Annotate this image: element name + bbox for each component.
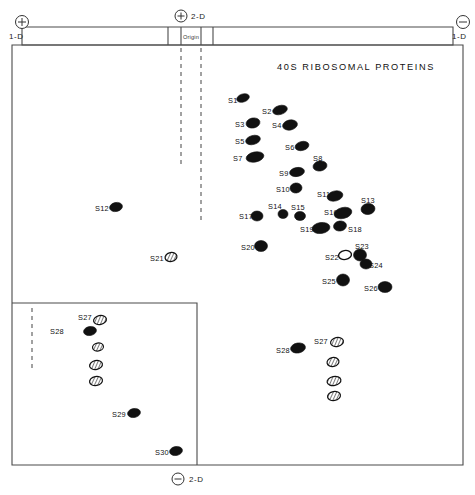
spot-ellipse	[294, 140, 310, 152]
spot-ellipse	[127, 407, 141, 418]
axis-marker-top-center: 2-D	[175, 10, 206, 22]
spot-ellipse	[245, 117, 261, 130]
spot-ellipse	[92, 342, 104, 352]
spot-label: S27	[78, 313, 92, 322]
spot-label: S3	[235, 120, 244, 129]
spot-ellipse	[378, 282, 392, 293]
protein-spot-S21: S21	[150, 252, 178, 263]
protein-spot-S3: S3	[235, 117, 261, 130]
spot-ellipse	[289, 166, 305, 177]
spot-ellipse	[89, 359, 104, 371]
page-title: 40S RIBOSOMAL PROTEINS	[277, 62, 435, 72]
protein-spot-S30: S30	[155, 445, 183, 456]
protein-spot-S18: S18	[333, 220, 362, 234]
spot-ellipse	[311, 221, 330, 234]
protein-spot-S2: S2	[262, 104, 288, 117]
protein-spot-S17: S17	[239, 211, 263, 221]
spot-ellipse	[278, 210, 288, 219]
spot-ellipse	[326, 375, 342, 387]
axis-label-top-left: 1-D	[9, 32, 24, 41]
spot-label: S9	[279, 169, 288, 178]
protein-spot-S19: S19	[300, 221, 331, 234]
spot-label: S12	[95, 204, 109, 213]
gel-electrophoresis-figure: 40S RIBOSOMAL PROTEINS Origin 1-D 1-D 2-…	[0, 0, 475, 495]
protein-spot-S29: S29	[112, 407, 141, 418]
protein-spot-S14: S14	[268, 202, 288, 219]
spot-label: S6	[285, 143, 294, 152]
spot-ellipse	[251, 211, 263, 221]
spot-ellipse	[255, 241, 268, 252]
protein-spot-S1: S1	[228, 92, 250, 104]
protein-spot-S9: S9	[279, 166, 305, 177]
protein-spot-S4: S4	[272, 119, 298, 132]
spot-label: S17	[239, 212, 253, 221]
spot-label: S4	[272, 121, 281, 130]
spot-label: S28	[276, 346, 290, 355]
protein-spot-S10: S10	[276, 182, 303, 194]
spot-label: S20	[241, 243, 255, 252]
protein-spot-S28: S28	[50, 325, 97, 336]
spot-ellipse	[282, 119, 299, 132]
protein-spot-S27: S27	[314, 336, 344, 348]
spot-label: S8	[313, 154, 322, 163]
spot-ellipse	[337, 274, 350, 286]
protein-spot-S5: S5	[235, 134, 261, 147]
protein-spot-unlabeled	[89, 375, 103, 386]
protein-spot-unlabeled	[89, 359, 104, 371]
spot-label: S5	[235, 137, 244, 146]
spot-ellipse	[338, 249, 352, 260]
axis-label-bottom-center: 2-D	[189, 475, 204, 484]
spot-ellipse	[164, 252, 177, 263]
spot-label: S22	[325, 253, 339, 262]
spot-ellipse	[326, 357, 339, 368]
main-gel-panel	[12, 45, 463, 465]
spot-label: S14	[268, 202, 282, 211]
inset-gel-panel	[12, 303, 197, 465]
gel-map-svg: 40S RIBOSOMAL PROTEINS Origin 1-D 1-D 2-…	[0, 0, 475, 495]
spot-label: S1	[228, 96, 237, 105]
spot-label: S13	[361, 196, 375, 205]
protein-spot-S13: S13	[360, 196, 375, 216]
spot-ellipse	[327, 390, 341, 401]
spot-label: S2	[262, 107, 271, 116]
spot-label: S15	[291, 203, 305, 212]
spot-ellipse	[109, 201, 124, 213]
protein-spot-S20: S20	[241, 241, 268, 252]
spot-label: S28	[50, 327, 64, 336]
origin-label: Origin	[183, 34, 199, 40]
protein-spot-S12: S12	[95, 201, 123, 213]
spot-label: S18	[348, 225, 362, 234]
protein-spot-S27: S27	[78, 313, 107, 326]
spot-label: S25	[322, 277, 336, 286]
protein-spot-S15: S15	[291, 203, 306, 221]
protein-spot-S7: S7	[233, 150, 265, 164]
spot-ellipse	[89, 375, 103, 386]
spot-label: S19	[300, 225, 314, 234]
spot-ellipse	[289, 182, 302, 194]
spot-ellipse	[272, 104, 289, 117]
protein-spot-unlabeled	[326, 375, 342, 387]
spot-ellipse	[295, 212, 306, 221]
spot-ellipse	[333, 220, 348, 232]
protein-spot-layer: S1S2S3S4S5S6S7S8S9S10S11S12S13S14S15S16S…	[50, 92, 392, 456]
spot-ellipse	[169, 445, 183, 456]
spot-label: S26	[364, 284, 378, 293]
protein-spot-unlabeled	[92, 342, 104, 352]
spot-ellipse	[290, 342, 307, 354]
protein-spot-S28: S28	[276, 342, 306, 355]
axis-marker-bottom-center: 2-D	[172, 473, 204, 485]
protein-spot-S8: S8	[312, 154, 328, 173]
spot-ellipse	[83, 325, 97, 336]
spot-label: S21	[150, 254, 164, 263]
spot-ellipse	[93, 314, 108, 326]
protein-spot-S26: S26	[364, 282, 392, 293]
protein-spot-S16: S16	[324, 205, 353, 220]
spot-ellipse	[245, 150, 265, 164]
protein-spot-S25: S25	[322, 274, 350, 286]
spot-ellipse	[330, 336, 345, 348]
protein-spot-unlabeled	[326, 357, 339, 368]
protein-spot-S23: S23	[354, 242, 369, 261]
spot-ellipse	[236, 92, 251, 104]
spot-label: S23	[355, 242, 369, 251]
spot-label: S11	[317, 190, 330, 199]
